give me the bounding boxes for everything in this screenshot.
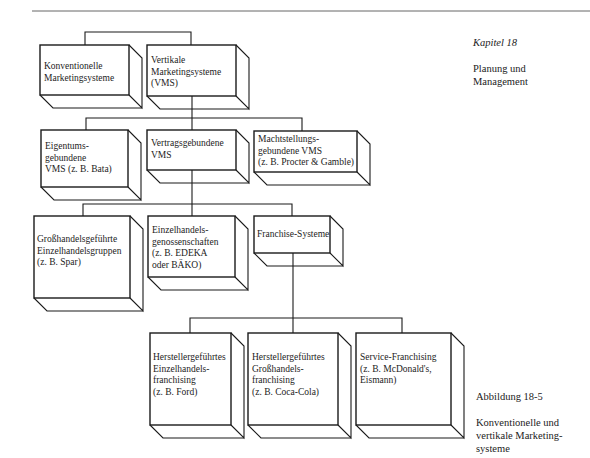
chapter-heading: Kapitel 18 Planung und Management xyxy=(473,23,528,101)
node-macht-label: Machtstellungs- gebundene VMS (z. B. Pro… xyxy=(258,134,354,169)
figure-caption-text: Konventionelle und vertikale Marketing- … xyxy=(476,416,563,455)
node-hersteller-einzel-label: Herstellergeführtes Einzelhandels- franc… xyxy=(153,352,226,398)
node-grosshandel-gruppen-label: Großhandelsgeführte Einzelhandelsgruppen… xyxy=(37,234,121,269)
node-eigentum-label: Eigentums- gebundene VMS (z. B. Bata) xyxy=(45,141,112,176)
node-konventionelle-label: Konventionelle Marketingsysteme xyxy=(44,61,114,84)
chapter-title: Planung und Management xyxy=(473,62,528,88)
figure-caption: Abbildung 18-5 Konventionelle und vertik… xyxy=(476,377,563,458)
node-vertrag-label: Vertragsgebundene VMS xyxy=(151,138,224,161)
node-service-label: Service-Franchising (z. B. McDonald's, E… xyxy=(360,352,437,387)
node-vertikale-label: Vertikale Marketingsysteme (VMS) xyxy=(151,55,221,90)
node-genossenschaften-label: Einzelhandels- genossenschaften (z. B. E… xyxy=(152,225,218,271)
chapter-number: Kapitel 18 xyxy=(473,36,528,49)
box-franchise xyxy=(254,216,343,266)
node-franchise-label: Franchise-Systeme xyxy=(257,229,329,241)
figure-number: Abbildung 18-5 xyxy=(476,390,563,403)
node-hersteller-gross-label: Herstellergeführtes Großhandels- franchi… xyxy=(252,352,325,398)
